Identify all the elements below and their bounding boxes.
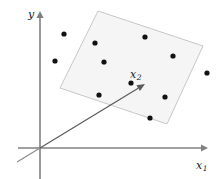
x1-axis-label-subscript: 1 [203,164,208,173]
figure-canvas: y x1 x2 [0,0,221,179]
x2-vector-label-subscript: 2 [137,73,142,82]
data-point [101,59,106,64]
data-point [128,80,133,85]
data-point [147,115,152,120]
y-axis-label: y [28,9,34,20]
diagram-svg [0,0,221,179]
data-point [96,92,101,97]
data-point [170,53,175,58]
data-point [162,94,167,99]
data-point [92,40,97,45]
data-point [61,31,66,36]
y-axis-arrowhead [36,11,43,18]
x2-vector-label-base: x [130,68,136,81]
data-point [52,58,57,63]
data-point [142,34,147,39]
vector-tail-extension [17,148,40,162]
data-point [204,70,209,75]
x2-vector-label: x2 [130,69,141,80]
x1-axis-label-base: x [196,159,202,172]
x1-axis-label: x1 [196,160,207,171]
x-axis-arrowhead [201,144,208,151]
